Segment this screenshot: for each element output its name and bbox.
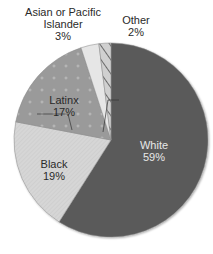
label-asian-pacific-islander: Asian or Pacific Islander 3% (18, 6, 108, 42)
label-white-line1: White (134, 139, 174, 151)
label-black-line1: Black (34, 158, 74, 170)
pie-slices (14, 43, 208, 237)
label-black: Black 19% (34, 158, 74, 182)
label-asian-line1: Asian or Pacific (18, 6, 108, 18)
label-other-line1: Other (116, 14, 156, 26)
label-white: White 59% (134, 139, 174, 163)
label-latinx-value: 17% (44, 106, 84, 118)
label-black-value: 19% (34, 170, 74, 182)
label-asian-line2: Islander (18, 18, 108, 30)
label-latinx-line1: Latinx (44, 94, 84, 106)
label-other: Other 2% (116, 14, 156, 38)
label-latinx: Latinx 17% (44, 94, 84, 118)
label-white-value: 59% (134, 151, 174, 163)
label-asian-value: 3% (18, 30, 108, 42)
label-other-value: 2% (116, 26, 156, 38)
